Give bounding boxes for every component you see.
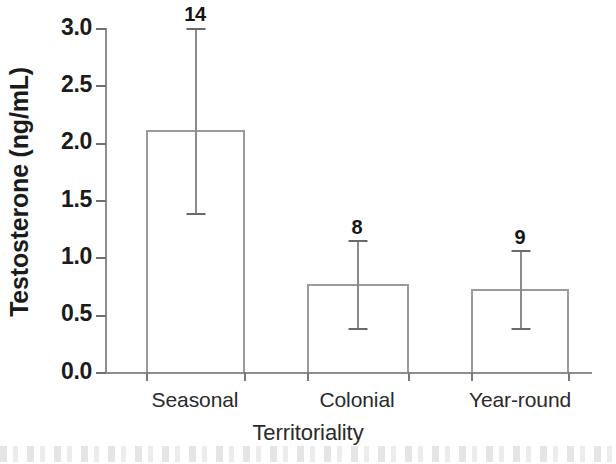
y-tick-mark — [96, 315, 106, 317]
y-tick-label: 1.5 — [34, 186, 92, 213]
y-tick-label: 1.0 — [34, 243, 92, 270]
y-tick-mark — [96, 143, 106, 145]
y-tick-label: 3.0 — [34, 14, 92, 41]
y-tick-mark — [96, 372, 106, 374]
y-axis-tick-labels: 3.0 2.5 2.0 1.5 1.0 0.5 0.0 — [34, 0, 92, 464]
x-tick-label-colonial: Colonial — [319, 388, 394, 412]
x-tick-mark — [471, 372, 473, 381]
error-bar-stem — [195, 28, 197, 215]
error-bar-cap-top — [511, 250, 530, 252]
error-bar-colonial — [348, 240, 367, 330]
error-bar-stem — [357, 240, 359, 330]
y-tick-mark — [96, 85, 106, 87]
y-tick-label: 0.0 — [34, 358, 92, 385]
x-tick-mark — [307, 372, 309, 381]
y-tick-mark — [96, 257, 106, 259]
x-axis-line — [105, 372, 592, 374]
error-bar-cap-top — [186, 28, 205, 30]
error-bar-cap-bottom — [186, 213, 205, 215]
error-bar-year-round — [511, 250, 530, 330]
x-axis-title: Territoriality — [0, 420, 616, 446]
x-tick-mark — [568, 372, 570, 381]
plot-area: 14 8 9 Seasonal Colonial Year-round — [105, 28, 592, 372]
sample-size-label-colonial: 8 — [352, 216, 363, 239]
x-tick-mark — [244, 372, 246, 381]
sample-size-label-year-round: 9 — [515, 226, 526, 249]
y-axis-title: Testosterone (ng/mL) — [4, 6, 34, 378]
y-tick-mark — [96, 28, 106, 30]
scan-artifact — [0, 446, 616, 462]
x-tick-label-seasonal: Seasonal — [152, 388, 239, 412]
error-bar-cap-top — [348, 240, 367, 242]
y-tick-label: 2.0 — [34, 128, 92, 155]
bar-chart-figure: Testosterone (ng/mL) 3.0 2.5 2.0 1.5 1.0… — [0, 0, 616, 464]
y-tick-label: 0.5 — [34, 300, 92, 327]
error-bar-cap-bottom — [348, 328, 367, 330]
x-tick-label-year-round: Year-round — [469, 388, 571, 412]
x-tick-mark — [146, 372, 148, 381]
error-bar-stem — [520, 250, 522, 330]
sample-size-label-seasonal: 14 — [184, 3, 206, 26]
error-bar-cap-bottom — [511, 328, 530, 330]
y-tick-label: 2.5 — [34, 71, 92, 98]
x-tick-mark — [408, 372, 410, 381]
error-bar-seasonal — [186, 28, 205, 215]
y-tick-mark — [96, 200, 106, 202]
